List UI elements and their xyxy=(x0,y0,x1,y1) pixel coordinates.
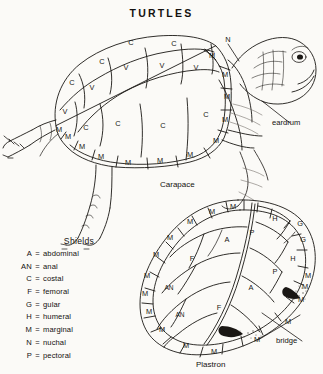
carapace-scute-m-21: M xyxy=(98,153,104,160)
turtle-anatomy-figure: TURTLES xyxy=(0,0,323,374)
plastron-scute-f-25: F xyxy=(217,304,222,311)
carapace-scute-c-12: C xyxy=(83,124,88,131)
legend-key: C xyxy=(6,275,32,283)
plastron-scute-m-4: M xyxy=(153,251,159,258)
legend-value: gular xyxy=(43,301,126,309)
legend-value: anal xyxy=(43,263,126,271)
legend-equals-sign: = xyxy=(32,313,43,321)
legend-equals-sign: = xyxy=(32,352,43,360)
legend-item-humeral: H=humeral xyxy=(6,313,126,321)
plastron-scute-m-8: M xyxy=(159,326,165,333)
carapace-scute-c-1: C xyxy=(171,40,176,47)
plastron-scute-a-22: A xyxy=(225,236,230,243)
carapace-scute-c-10: C xyxy=(160,122,165,129)
legend-key: G xyxy=(6,301,32,309)
plastron-scute-p-20: P xyxy=(250,229,255,236)
plastron-scute-m-2: M xyxy=(187,218,193,225)
carapace-scute-c-9: C xyxy=(115,120,120,127)
plastron-scute-m-6: M xyxy=(142,290,148,297)
legend-value: abdominal xyxy=(43,250,126,258)
legend-rows: A=abdominalAN=analC=costalF=femoralG=gul… xyxy=(6,250,126,359)
plastron-scute-m-15: M xyxy=(305,272,311,279)
legend-value: humeral xyxy=(43,313,126,321)
nuchal-label: N xyxy=(225,36,230,43)
plastron-scute-h-16: H xyxy=(272,215,277,222)
legend-item-pectoral: P=pectoral xyxy=(6,352,126,360)
legend-equals-sign: = xyxy=(32,339,43,347)
carapace-scute-v-4: V xyxy=(124,64,129,71)
carapace-scute-c-2: C xyxy=(99,58,104,65)
plastron-scute-g-17: G xyxy=(297,220,303,227)
legend-equals-sign: = xyxy=(32,263,43,271)
legend-key: A xyxy=(6,250,32,258)
carapace-caption: Carapace xyxy=(160,180,195,189)
carapace-scute-m-17: M xyxy=(213,137,219,144)
legend-value: costal xyxy=(43,275,126,283)
eardrum-callout: eardrum xyxy=(272,118,300,127)
carapace-scute-m-13: M xyxy=(209,52,215,59)
legend-heading: Shields xyxy=(32,236,126,246)
plastron-scute-p-21: P xyxy=(273,268,278,275)
plastron-scute-m-10: M xyxy=(211,348,217,355)
carapace-scute-m-15: M xyxy=(224,93,230,100)
plastron-scute-m-12: M xyxy=(285,318,291,325)
carapace-scute-v-5: V xyxy=(160,62,165,69)
plastron-scute-m-7: M xyxy=(146,308,152,315)
legend-item-marginal: M=marginal xyxy=(6,326,126,334)
plastron-scute-m-3: M xyxy=(167,234,173,241)
plastron-scute-m-9: M xyxy=(183,342,189,349)
legend-item-nuchal: N=nuchal xyxy=(6,339,126,347)
carapace-scute-m-23: M xyxy=(65,133,71,140)
carapace-scute-m-19: M xyxy=(157,157,163,164)
plastron-scute-f-24: F xyxy=(190,255,195,262)
plastron-scute-an-26: AN xyxy=(164,285,173,292)
carapace-scute-m-24: M xyxy=(56,126,62,133)
carapace-scute-v-7: V xyxy=(90,84,95,91)
carapace-scute-m-20: M xyxy=(125,159,131,166)
carapace-scute-c-0: C xyxy=(128,39,133,46)
legend-key: H xyxy=(6,313,32,321)
plastron-scute-g-18: G xyxy=(300,236,306,243)
legend-item-femoral: F=femoral xyxy=(6,288,126,296)
plastron-scute-an-27: AN xyxy=(175,312,184,319)
carapace-scute-c-3: C xyxy=(69,79,74,86)
plastron-scute-m-13: M xyxy=(298,296,304,303)
legend-value: pectoral xyxy=(43,352,126,360)
plastron-caption: Plastron xyxy=(196,360,225,369)
plastron-scute-h-19: H xyxy=(290,255,295,262)
legend-equals-sign: = xyxy=(32,326,43,334)
carapace-scute-v-8: V xyxy=(63,108,68,115)
legend-item-gular: G=gular xyxy=(6,301,126,309)
plastron-scute-m-5: M xyxy=(144,272,150,279)
legend-equals-sign: = xyxy=(32,288,43,296)
plastron-scute-a-23: A xyxy=(249,284,254,291)
legend-key: N xyxy=(6,339,32,347)
legend-key: AN xyxy=(6,263,32,271)
carapace-scute-m-22: M xyxy=(79,143,85,150)
legend-key: M xyxy=(6,326,32,334)
legend-value: femoral xyxy=(43,288,126,296)
legend-equals-sign: = xyxy=(32,250,43,258)
bridge-callout: bridge xyxy=(276,336,297,345)
plastron-scute-m-11: M xyxy=(254,336,260,343)
legend-item-costal: C=costal xyxy=(6,275,126,283)
legend-key: F xyxy=(6,288,32,296)
legend-equals-sign: = xyxy=(32,275,43,283)
legend-value: nuchal xyxy=(43,339,126,347)
shields-legend: Shields A=abdominalAN=analC=costalF=femo… xyxy=(6,236,126,364)
carapace-scute-m-16: M xyxy=(222,116,228,123)
plastron-scute-m-0: M xyxy=(230,203,236,210)
legend-item-abdominal: A=abdominal xyxy=(6,250,126,258)
legend-key: P xyxy=(6,352,32,360)
plastron-scute-m-14: M xyxy=(302,283,308,290)
carapace-scute-m-18: M xyxy=(187,151,193,158)
legend-value: marginal xyxy=(43,326,126,334)
carapace-scute-c-11: C xyxy=(203,111,208,118)
legend-equals-sign: = xyxy=(32,301,43,309)
legend-item-anal: AN=anal xyxy=(6,263,126,271)
carapace-scute-m-14: M xyxy=(222,71,228,78)
plastron-scute-m-1: M xyxy=(209,208,215,215)
carapace-scute-v-6: V xyxy=(194,64,199,71)
